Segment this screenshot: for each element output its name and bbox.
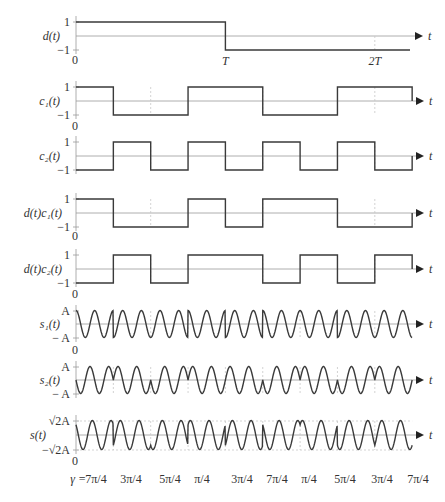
axis-arrow-icon [416,97,424,105]
origin-label: 0 [72,229,78,243]
signal-label-c2: c₂(t) [39,149,60,163]
panel-dc1: t1−1d(t)c₁(t)0 [24,192,433,243]
y-max-label: √2A [49,414,71,428]
y-max-label: 1 [64,135,70,149]
panel-c1: t1−1c₁(t)0 [39,80,433,133]
y-max-label: 1 [64,248,70,262]
y-max-label: A [61,304,70,318]
t-axis-label: t [428,29,432,43]
signal-label-dc1: d(t)c₁(t) [24,206,62,220]
axis-arrow-icon [416,376,424,384]
panel-dc2: t1−1d(t)c₂(t) [24,248,433,290]
y-max-label: A [61,360,70,374]
axis-arrow-icon [416,209,424,217]
panel-s1: tA− As₁(t)0 [40,287,433,345]
panel-c2: t1−1c₂(t) [39,135,433,177]
y-max-label: 1 [64,80,70,94]
gamma-value: 3π/4 [231,472,252,486]
time-tick-2T: 2T [368,54,382,68]
panel-d: t1−1d(t)0T2T [43,15,432,68]
gamma-prefix: γ = [70,472,86,486]
y-min-label: −1 [57,163,70,177]
axis-arrow-icon [416,265,424,273]
origin-label: 0 [72,53,78,67]
gamma-value: 5π/4 [159,472,180,486]
signal-label-c1: c₁(t) [39,94,60,108]
spread-spectrum-timing-diagram: t1−1d(t)0T2Tt1−1c₁(t)0t1−1c₂(t)t1−1d(t)c… [0,0,445,502]
gamma-value: π/4 [301,472,316,486]
t-axis-label: t [429,373,433,387]
gamma-value: 3π/4 [120,472,141,486]
y-min-label: −1 [57,276,70,290]
t-axis-label: t [429,428,433,442]
y-min-label: −1 [57,108,70,122]
origin-label: 0 [72,343,78,357]
panel-s: t√2A−√2As(t)0 [30,414,433,468]
gamma-value: π/4 [194,472,209,486]
y-min-label: −√2A [42,443,70,457]
gamma-value: 3π/4 [371,472,392,486]
t-axis-label: t [429,94,433,108]
gamma-value: 7π/4 [85,472,106,486]
origin-label: 0 [72,454,78,468]
gamma-value: 7π/4 [407,472,428,486]
signal-label-dc2: d(t)c₂(t) [24,262,62,276]
axis-arrow-icon [416,152,424,160]
t-axis-label: t [429,149,433,163]
gamma-value: 7π/4 [266,472,287,486]
y-max-label: 1 [64,192,70,206]
y-min-label: −1 [57,43,70,57]
panel-s2: tA− As₂(t)0 [40,343,433,401]
gamma-row: γ =7π/43π/45π/4π/43π/47π/4π/45π/43π/47π/… [70,472,429,486]
t-axis-label: t [429,262,433,276]
y-min-label: −1 [57,220,70,234]
signal-label-s2: s₂(t) [40,373,60,387]
t-axis-label: t [429,317,433,331]
t-axis-label: t [429,206,433,220]
origin-label: 0 [72,287,78,301]
signal-label-d: d(t) [43,29,60,43]
signal-label-s: s(t) [30,428,46,442]
y-min-label: − A [52,331,70,345]
signal-label-s1: s₁(t) [40,317,60,331]
y-max-label: 1 [64,15,70,29]
gamma-value: 5π/4 [334,472,355,486]
axis-arrow-icon [415,32,423,40]
time-tick-T: T [222,54,230,68]
axis-arrow-icon [416,431,424,439]
axis-arrow-icon [416,320,424,328]
origin-label: 0 [72,119,78,133]
y-min-label: − A [52,387,70,401]
